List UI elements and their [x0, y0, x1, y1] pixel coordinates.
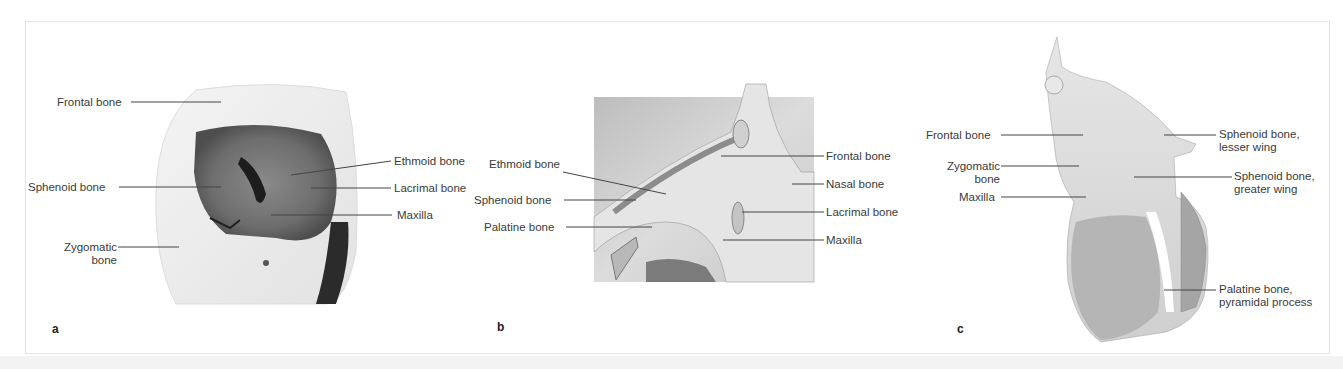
- label-zygomatic-bone-line1: Zygomatic: [55, 241, 117, 254]
- label-sphenoid-lesser-wing-line2: lesser wing: [1219, 141, 1277, 154]
- label-frontal-bone: Frontal bone: [926, 129, 991, 142]
- label-zygomatic-bone-line1: Zygomatic: [940, 160, 1000, 173]
- label-maxilla: Maxilla: [826, 234, 862, 247]
- label-lacrimal-bone: Lacrimal bone: [826, 206, 898, 219]
- label-frontal-bone: Frontal bone: [57, 96, 122, 109]
- label-sphenoid-bone: Sphenoid bone: [28, 181, 105, 194]
- label-sphenoid-bone: Sphenoid bone: [474, 194, 551, 207]
- label-palatine-pyramidal-process-line1: Palatine bone,: [1219, 283, 1293, 296]
- panel-b: Ethmoid bone Sphenoid bone Palatine bone…: [456, 22, 926, 353]
- label-ethmoid-bone: Ethmoid bone: [394, 155, 465, 168]
- label-palatine-pyramidal-process-line2: pyramidal process: [1219, 296, 1312, 309]
- label-sphenoid-lesser-wing-line1: Sphenoid bone,: [1219, 128, 1300, 141]
- figure-frame: Frontal bone Sphenoid bone Zygomatic bon…: [25, 21, 1330, 354]
- label-frontal-bone: Frontal bone: [826, 150, 891, 163]
- panel-c: Frontal bone Zygomatic bone Maxilla Sphe…: [926, 22, 1331, 353]
- label-ethmoid-bone: Ethmoid bone: [489, 158, 560, 171]
- label-maxilla: Maxilla: [959, 191, 995, 204]
- label-nasal-bone: Nasal bone: [826, 178, 884, 191]
- panel-letter-c: c: [957, 323, 964, 336]
- label-zygomatic-bone-line2: bone: [940, 173, 1000, 186]
- panel-letter-a: a: [52, 323, 59, 336]
- panel-a: Frontal bone Sphenoid bone Zygomatic bon…: [26, 22, 456, 353]
- label-palatine-bone: Palatine bone: [484, 221, 554, 234]
- page-bottom-band: [0, 356, 1343, 369]
- label-sphenoid-greater-wing-line1: Sphenoid bone,: [1234, 170, 1315, 183]
- label-sphenoid-greater-wing-line2: greater wing: [1234, 183, 1297, 196]
- label-zygomatic-bone-line2: bone: [55, 254, 117, 267]
- label-maxilla: Maxilla: [397, 209, 433, 222]
- panel-letter-b: b: [497, 321, 504, 334]
